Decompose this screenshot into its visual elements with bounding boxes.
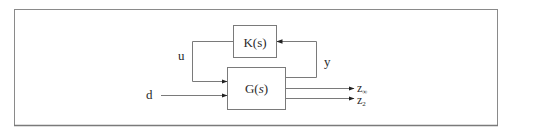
plant-block-g: G(s) xyxy=(228,68,286,110)
controller-block-label: K(s) xyxy=(243,35,266,50)
block-diagram: K(s) G(s) u y d z∞ z2 xyxy=(0,0,534,131)
plant-block-label: G(s) xyxy=(245,81,268,96)
signal-y-label: y xyxy=(324,54,331,69)
signal-u-label: u xyxy=(178,48,185,63)
signal-u-arrow xyxy=(193,42,234,82)
controller-block-k: K(s) xyxy=(234,26,277,58)
signal-d-label: d xyxy=(146,87,153,102)
